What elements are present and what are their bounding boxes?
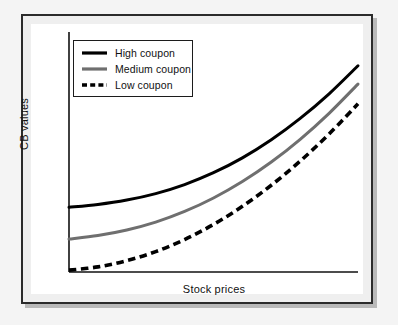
x-axis-title: Stock prices — [69, 283, 359, 295]
legend-swatch-medium-coupon — [81, 63, 108, 75]
legend-swatch-low-coupon — [81, 79, 108, 91]
y-axis-title: CB values — [18, 74, 30, 174]
legend-label-low-coupon: Low coupon — [115, 79, 173, 91]
legend-swatch-high-coupon — [81, 47, 108, 59]
chart-legend: High coupon Medium coupon Low coupon — [73, 40, 193, 97]
legend-label-high-coupon: High coupon — [115, 47, 175, 59]
legend-item-high-coupon[interactable]: High coupon — [81, 45, 192, 61]
legend-label-medium-coupon: Medium coupon — [115, 63, 191, 75]
legend-item-medium-coupon[interactable]: Medium coupon — [81, 61, 192, 77]
legend-item-low-coupon[interactable]: Low coupon — [81, 77, 192, 93]
figure-page: CB values Stock prices High coupon Mediu… — [0, 0, 398, 325]
